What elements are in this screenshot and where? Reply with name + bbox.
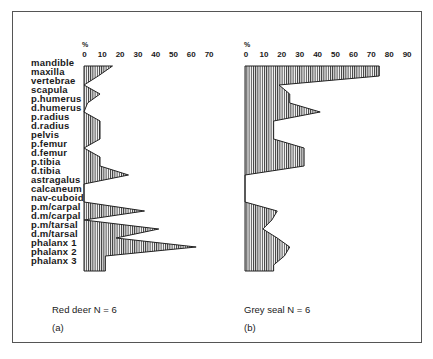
seal-caption: Grey seal N = 6 — [244, 304, 310, 315]
seal-panel-label: (b) — [244, 322, 256, 333]
deer-caption: Red deer N = 6 — [52, 304, 117, 315]
deer-panel-label: (a) — [52, 322, 64, 333]
grey-seal-profile — [245, 66, 379, 271]
red-deer-profile — [84, 66, 196, 271]
